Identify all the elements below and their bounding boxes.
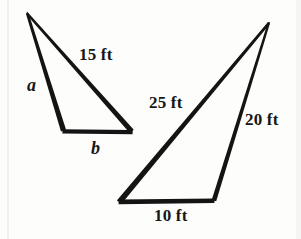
label-large-right-side: 20 ft [245, 111, 279, 128]
small-triangle-side-15ft-stroke [26, 12, 134, 134]
small-triangle [26, 12, 134, 135]
label-small-hypotenuse: 15 ft [79, 46, 113, 63]
large-triangle-side-10ft-stroke [119, 199, 215, 205]
label-small-left-side: a [27, 76, 36, 94]
small-triangle-side-b-stroke [62, 129, 132, 134]
label-large-base: 10 ft [154, 207, 188, 224]
geometry-figure: 15 ft a b 25 ft 20 ft 10 ft [0, 0, 301, 239]
small-triangle-side-a-stroke [26, 13, 66, 131]
label-small-base: b [91, 139, 100, 157]
label-large-hypotenuse: 25 ft [149, 94, 183, 111]
